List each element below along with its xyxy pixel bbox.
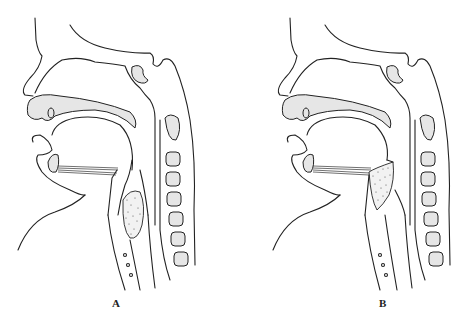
incisive-canal bbox=[48, 108, 54, 118]
panel-a: A bbox=[0, 0, 235, 327]
tracheal-ring bbox=[130, 274, 133, 277]
chin-neck-line bbox=[273, 195, 340, 250]
mandible-symphysis bbox=[303, 154, 314, 172]
hard-palate bbox=[27, 95, 135, 128]
cervical-vertebrae bbox=[420, 115, 443, 266]
geniohyoid-muscle bbox=[313, 166, 371, 175]
trachea-anterior bbox=[108, 215, 125, 290]
sagittal-illustration-b bbox=[235, 0, 470, 327]
incisive-canal bbox=[303, 108, 309, 118]
sphenoid-sinus bbox=[387, 66, 403, 84]
geniohyoid-muscle bbox=[58, 166, 118, 175]
stippled-mass bbox=[123, 191, 144, 238]
nasal-cavity-outline bbox=[290, 58, 410, 225]
trachea-posterior bbox=[130, 240, 140, 290]
pharyngeal-wall bbox=[395, 190, 405, 215]
esophagus-wall bbox=[148, 215, 155, 288]
tracheal-ring bbox=[385, 274, 388, 277]
panel-label-b: B bbox=[379, 297, 386, 309]
trachea-anterior bbox=[365, 215, 380, 290]
cervical-vertebrae bbox=[165, 115, 188, 266]
mandible-symphysis bbox=[48, 154, 59, 172]
hyoid-line bbox=[365, 175, 369, 215]
sphenoid-sinus bbox=[132, 66, 148, 84]
sagittal-illustration-a bbox=[0, 0, 235, 327]
hyoid-line bbox=[108, 170, 117, 215]
tracheal-ring bbox=[379, 254, 382, 257]
trachea-posterior bbox=[385, 215, 397, 290]
tongue-dorsum bbox=[307, 117, 388, 160]
tracheal-ring bbox=[127, 264, 130, 267]
panel-label-a: A bbox=[112, 297, 120, 309]
tracheal-ring bbox=[124, 254, 127, 257]
hard-palate bbox=[282, 95, 390, 128]
chin-neck-line bbox=[18, 195, 85, 250]
tracheal-ring bbox=[382, 264, 385, 267]
panel-b: B bbox=[235, 0, 470, 327]
tongue-dorsum bbox=[52, 117, 133, 170]
epiglottis-tip bbox=[387, 160, 393, 162]
stippled-mass bbox=[369, 162, 394, 210]
esophagus-wall bbox=[405, 215, 412, 288]
